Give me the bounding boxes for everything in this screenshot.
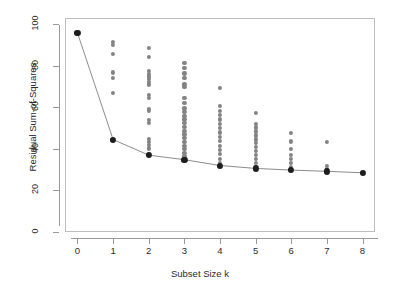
x-tick-mark (327, 238, 328, 244)
y-tick-mark (53, 24, 59, 25)
x-tick-mark (149, 238, 150, 244)
x-tick-mark (184, 238, 185, 244)
x-tick-label: 8 (352, 245, 374, 256)
y-tick-mark (53, 232, 59, 233)
x-tick-label: 7 (316, 245, 338, 256)
y-tick-label: 0 (30, 216, 40, 246)
x-tick-label: 1 (102, 245, 124, 256)
y-axis-title-container: Residual Sum-of-Squares (27, 17, 41, 217)
x-tick-label: 6 (280, 245, 302, 256)
y-axis-title: Residual Sum-of-Squares (27, 17, 38, 217)
x-tick-label: 5 (245, 245, 267, 256)
y-tick-mark (53, 107, 59, 108)
x-tick-mark (256, 238, 257, 244)
x-axis-title: Subset Size k (0, 268, 400, 279)
y-tick-mark (53, 149, 59, 150)
x-tick-label: 0 (66, 245, 88, 256)
x-tick-label: 2 (138, 245, 160, 256)
y-tick-mark (53, 66, 59, 67)
plot-data-area (65, 18, 375, 232)
x-tick-mark (291, 238, 292, 244)
x-axis-line (71, 238, 378, 239)
x-tick-mark (363, 238, 364, 244)
x-tick-mark (220, 238, 221, 244)
x-tick-label: 4 (209, 245, 231, 256)
y-tick-label-wrap: 0 (18, 226, 50, 238)
y-axis-line (59, 25, 60, 226)
x-tick-mark (77, 238, 78, 244)
regression-subset-plot: 020406080100 012345678 Residual Sum-of-S… (0, 0, 400, 300)
y-tick-mark (53, 190, 59, 191)
x-tick-mark (113, 238, 114, 244)
x-tick-label: 3 (173, 245, 195, 256)
